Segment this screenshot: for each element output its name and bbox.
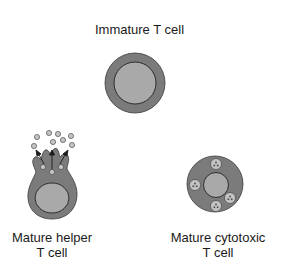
cytotoxic-label-line2: T cell xyxy=(157,245,279,260)
vesicle xyxy=(31,143,36,148)
internal-vesicle xyxy=(40,164,45,169)
vesicle xyxy=(34,134,39,139)
helper-label-line1: Mature helper xyxy=(0,230,104,245)
immature-t-cell xyxy=(105,53,165,113)
internal-vesicle xyxy=(49,169,54,174)
granule xyxy=(211,201,222,212)
granule xyxy=(211,159,222,170)
internal-vesicle xyxy=(58,164,63,169)
vesicle xyxy=(69,142,74,147)
vesicle xyxy=(55,131,60,136)
vesicle xyxy=(68,133,73,138)
cytotoxic-t-cell xyxy=(187,156,243,212)
arrowhead-icon xyxy=(36,150,41,156)
cytotoxic-label-line1: Mature cytotoxic xyxy=(157,230,279,245)
vesicle xyxy=(46,130,51,135)
helper-cell-nucleus xyxy=(35,183,69,213)
helper-t-cell-label: Mature helper T cell xyxy=(0,230,104,260)
vesicle xyxy=(50,139,55,144)
cytotoxic-t-cell-label: Mature cytotoxic T cell xyxy=(157,230,279,260)
immature-label-text: Immature T cell xyxy=(95,22,184,37)
cytotoxic-cell-nucleus xyxy=(204,173,229,198)
immature-t-cell-label: Immature T cell xyxy=(0,22,283,37)
vesicle xyxy=(60,137,65,142)
granule xyxy=(190,180,201,191)
immature-cell-nucleus xyxy=(114,62,156,104)
helper-t-cell xyxy=(28,130,77,219)
granule xyxy=(225,193,236,204)
helper-label-line2: T cell xyxy=(0,245,104,260)
secreted-vesicles xyxy=(31,130,74,148)
